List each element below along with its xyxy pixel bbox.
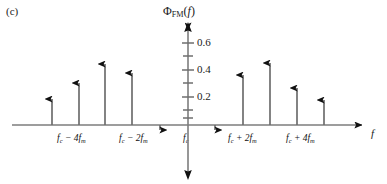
spectrum-plot-canvas xyxy=(0,0,387,184)
fm-spectrum-figure: (c) ΦFM(f) f 0.6 0.4 0.2 fc − 4fm fc − 2… xyxy=(0,0,387,184)
y-axis xyxy=(184,22,192,180)
